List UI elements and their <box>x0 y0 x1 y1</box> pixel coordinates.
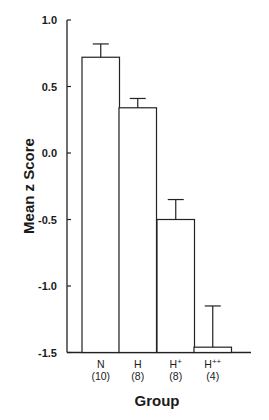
category-n-label: (4) <box>206 370 219 382</box>
category-label: H++ <box>204 357 221 370</box>
y-tick-label: 1.0 <box>42 14 57 26</box>
y-tick-label: -0.5 <box>38 214 57 226</box>
x-axis-label: Group <box>135 392 180 409</box>
category-n-label: (8) <box>131 370 144 382</box>
category-label: N <box>97 358 105 370</box>
bar-2 <box>157 220 195 353</box>
y-tick-label: -1.5 <box>38 347 57 359</box>
y-axis-label: Mean z Score <box>20 138 37 234</box>
category-n-label: (10) <box>91 370 110 382</box>
bar-chart: 1.00.50.0-0.5-1.0-1.5 N(10)H(8)H+(8)H++(… <box>0 0 269 420</box>
y-tick-label: 0.0 <box>42 147 57 159</box>
x-tick-labels: N(10)H(8)H+(8)H++(4) <box>91 357 221 382</box>
bar-3 <box>194 347 232 352</box>
y-tick-label: 0.5 <box>42 81 57 93</box>
y-tick-label: -1.0 <box>38 280 57 292</box>
bar-0 <box>82 57 120 352</box>
bars <box>82 44 232 353</box>
bar-1 <box>119 108 157 353</box>
category-label: H <box>134 358 142 370</box>
category-n-label: (8) <box>169 370 182 382</box>
category-label: H+ <box>170 357 183 370</box>
